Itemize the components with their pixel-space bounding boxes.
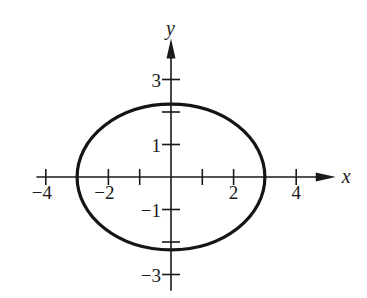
ellipse-chart: −4−22431−1−3 x y — [0, 0, 367, 298]
y-tick-label: −1 — [141, 200, 161, 221]
x-axis-arrow-icon — [316, 173, 336, 182]
x-tick-label: 2 — [229, 182, 239, 203]
x-tick-label: −4 — [32, 182, 53, 203]
y-tick-label: 3 — [152, 70, 162, 91]
y-axis-label: y — [164, 17, 175, 40]
y-tick-label: −3 — [141, 265, 161, 286]
y-axis-arrow-icon — [167, 39, 176, 59]
y-tick-label: 1 — [152, 135, 162, 156]
x-tick-label: −2 — [94, 182, 114, 203]
x-axis-label: x — [341, 165, 351, 187]
x-tick-label: 4 — [291, 182, 301, 203]
axes — [36, 39, 335, 291]
